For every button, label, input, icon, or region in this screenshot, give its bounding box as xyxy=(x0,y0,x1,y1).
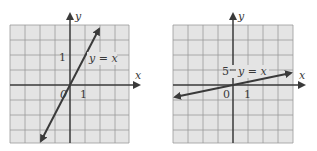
y-tick-label: 1 xyxy=(59,51,66,64)
x-tick-label: 1 xyxy=(80,88,87,101)
graph-right: y x y = x 5 1 0 xyxy=(160,0,317,151)
y-axis-label: y xyxy=(237,10,245,23)
coordinate-plane-right: y x y = x 5 1 0 xyxy=(160,0,317,151)
x-axis-label: x xyxy=(299,69,306,82)
origin-label: 0 xyxy=(60,88,67,101)
graph-left: y x y = x 1 1 0 xyxy=(0,0,160,151)
origin-label: 0 xyxy=(223,88,230,101)
y-tick-label: 5 xyxy=(222,65,229,78)
coordinate-plane-left: y x y = x 1 1 0 xyxy=(0,0,160,151)
x-axis-label: x xyxy=(135,69,142,82)
line-label: y = x xyxy=(237,65,267,78)
line-label: y = x xyxy=(88,52,118,65)
y-axis-label: y xyxy=(74,10,82,23)
x-tick-label: 1 xyxy=(244,88,251,101)
